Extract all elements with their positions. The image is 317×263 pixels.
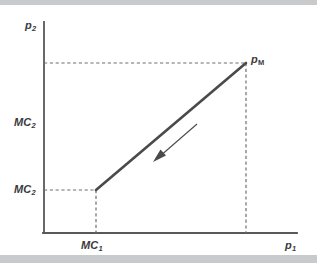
direction-arrow-icon [153, 124, 197, 162]
figure-container: p2 p1 MC2 MC2 MC1 pM [0, 0, 317, 263]
x-axis-label: p1 [285, 240, 296, 251]
point-label-pm: pM [251, 54, 264, 65]
plot-area [0, 0, 317, 263]
y-tick-label-mc2-lower: MC2 [14, 184, 36, 195]
y-axis-label: p2 [25, 20, 36, 31]
y-tick-label-mc2-upper: MC2 [14, 117, 36, 128]
x-tick-label-mc1: MC1 [81, 240, 103, 251]
reaction-line [96, 63, 246, 190]
